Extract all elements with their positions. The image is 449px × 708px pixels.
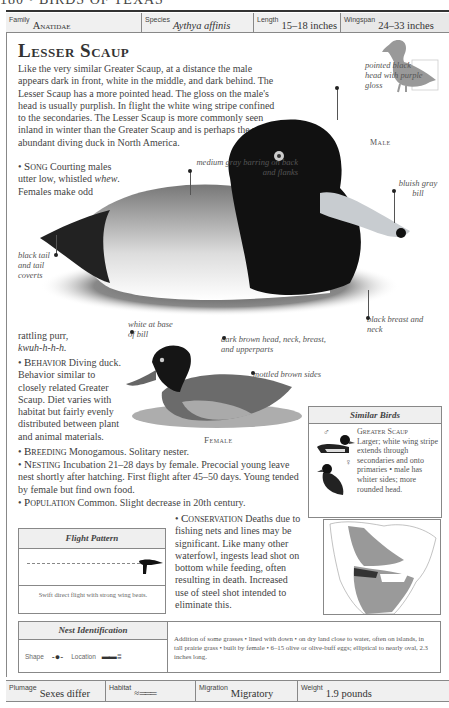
weight-cell: Weight 1.9 pounds xyxy=(298,681,449,701)
similar-birds-box: Similar Birds ♂ ♀ Greater Scaup Larger; … xyxy=(308,406,442,518)
flight-pattern-title: Flight Pattern xyxy=(19,529,165,549)
callout-line xyxy=(56,235,57,255)
callout-female-sides: mottled brown sides xyxy=(253,369,343,379)
running-head: 180 • BIRDS OF TEXAS xyxy=(0,0,164,8)
family-cell: Family Anatidae xyxy=(6,13,142,32)
migration-value: Migratory xyxy=(231,688,274,699)
breeding-section: • Breeding Monogamous. Solitary nester. xyxy=(18,445,308,458)
callout-female-head: dark brown head, neck, breast, and upper… xyxy=(221,334,331,354)
callout-line xyxy=(368,290,369,318)
migration-label: Migration xyxy=(199,681,228,691)
callout-dot xyxy=(222,336,226,340)
song-continued: rattling purr,kwuh-h-h-h. xyxy=(18,330,118,355)
length-cell: Length 15–18 inches xyxy=(254,13,341,32)
species-cell: Species Aythya affinis xyxy=(142,13,254,32)
wingspan-label: Wingspan xyxy=(344,13,375,23)
north-america-map-icon xyxy=(324,520,441,615)
similar-bird-name: Greater Scaup xyxy=(357,427,408,436)
habitat-label: Habitat xyxy=(109,681,131,691)
similar-bird-description: Larger; white wing stripe extends throug… xyxy=(357,437,438,494)
flight-pattern-description: Swift direct flight with strong wing bea… xyxy=(23,591,163,598)
weight-value: 1.9 pounds xyxy=(326,688,372,699)
callout-male-back: medium gray barring on back and flanks xyxy=(188,157,298,177)
flying-duck-icon xyxy=(137,555,163,575)
species-label: Species xyxy=(145,13,170,23)
callout-dot xyxy=(188,169,192,173)
flight-pattern-box: Flight Pattern Swift direct flight with … xyxy=(18,528,166,614)
callout-male-bill: bluish gray bill xyxy=(393,178,443,198)
behavior-section: • Behavior Diving duck. Behavior similar… xyxy=(18,356,126,443)
song-section: • Song Courting males utter low, whistle… xyxy=(18,160,128,198)
weight-label: Weight xyxy=(301,681,323,691)
conservation-label: Conservation xyxy=(181,512,243,524)
species-title: Lesser Scaup xyxy=(18,40,129,62)
length-label: Length xyxy=(257,13,278,23)
plumage-cell: Plumage Sexes differ xyxy=(6,681,106,701)
page-border xyxy=(6,32,7,677)
family-value: Anatidae xyxy=(33,20,71,31)
nesting-section: • Nesting Incubation 21–28 days by femal… xyxy=(18,458,308,496)
population-section: • Population Common. Slight decrease in … xyxy=(18,496,308,509)
greater-scaup-male-icon xyxy=(315,433,355,455)
plumage-value: Sexes differ xyxy=(40,688,90,699)
similar-birds-title: Similar Birds xyxy=(309,407,441,424)
male-duck-illustration xyxy=(30,118,420,318)
callout-male-breast: black breast and neck xyxy=(367,314,427,334)
nest-icons-row: Shape -●- Location ▬▬ ⁞⁞⁞ xyxy=(19,640,167,673)
population-label: Population xyxy=(24,496,75,508)
callout-male-head: pointed black head with purple gloss xyxy=(365,60,425,90)
nest-identification-description: Addition of some grasses • lined with do… xyxy=(168,622,440,672)
callout-dot xyxy=(392,189,396,193)
migration-cell: Migration Migratory xyxy=(196,681,298,701)
flight-diagram xyxy=(19,549,165,586)
nest-identification-box: Nest Identification Shape -●- Location ▬… xyxy=(18,621,441,673)
wingspan-cell: Wingspan 24–33 inches xyxy=(341,13,449,32)
header-rule xyxy=(6,10,449,12)
callout-line xyxy=(190,171,191,195)
greater-scaup-female-icon xyxy=(317,463,347,497)
callout-female-bill: white at base of bill xyxy=(128,319,178,339)
length-value: 15–18 inches xyxy=(281,20,337,31)
callout-line xyxy=(394,191,395,223)
species-value: Aythya affinis xyxy=(173,20,230,31)
song-label: Song xyxy=(24,160,47,172)
wingspan-value: 24–33 inches xyxy=(378,20,434,31)
callout-dot xyxy=(54,253,58,257)
breeding-label: Breeding xyxy=(24,445,66,457)
female-label: Female xyxy=(204,435,233,445)
behavior-label: Behavior xyxy=(24,356,66,368)
habitat-water-icon: ≈ ═══ xyxy=(134,688,155,698)
habitat-cell: Habitat ≈ ═══ xyxy=(106,681,196,701)
callout-dot xyxy=(366,316,370,320)
plumage-label: Plumage xyxy=(9,681,37,691)
range-map xyxy=(323,519,441,615)
flight-path-line xyxy=(27,563,155,564)
nest-shape-icon: -●- xyxy=(52,652,63,662)
nest-left-panel: Nest Identification Shape -●- Location ▬… xyxy=(19,622,168,672)
nest-identification-title: Nest Identification xyxy=(19,622,167,640)
callout-line xyxy=(337,88,338,120)
shape-label: Shape xyxy=(25,653,44,660)
callout-dot xyxy=(130,330,134,334)
nest-location-icon: ▬▬ ⁞⁞⁞ xyxy=(102,652,121,661)
nesting-label: Nesting xyxy=(24,458,60,470)
info-bar: Family Anatidae Species Aythya affinis L… xyxy=(6,13,449,33)
footer-bar: Plumage Sexes differ Habitat ≈ ═══ Migra… xyxy=(6,680,449,702)
family-label: Family xyxy=(9,13,30,23)
callout-dot xyxy=(251,371,255,375)
conservation-section: • Conservation Deaths due to fishing net… xyxy=(175,512,303,611)
callout-dot xyxy=(335,86,339,90)
male-label: Male xyxy=(370,138,391,147)
similar-birds-text: Greater Scaup Larger; white wing stripe … xyxy=(357,427,441,494)
location-label: Location xyxy=(71,653,96,660)
